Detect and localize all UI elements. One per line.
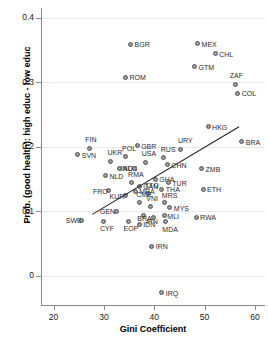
data-point (75, 152, 80, 157)
data-point (195, 41, 200, 46)
data-point (199, 166, 204, 171)
x-axis-tick-label: 30 (92, 312, 116, 322)
data-point-label: BGR (135, 41, 150, 48)
y-axis-tick (36, 18, 41, 19)
data-point-label: SVN (82, 152, 96, 159)
data-point-label: IRQ (166, 290, 178, 297)
data-point (213, 51, 218, 56)
data-point (162, 200, 167, 205)
y-axis-tick (36, 147, 41, 148)
data-point-label: SWE (66, 217, 82, 224)
data-point (206, 124, 211, 129)
data-point-label: MDA (162, 226, 178, 233)
x-axis-title: Gini Coefficient (41, 324, 265, 334)
data-point-label: ZMB (206, 166, 221, 173)
data-point-label: COL (242, 90, 256, 97)
data-point-label: MYS (174, 205, 189, 212)
data-point-label: TTO (145, 182, 159, 189)
data-point-label: IDN (143, 221, 155, 228)
data-point (166, 180, 171, 185)
data-point (192, 64, 197, 69)
y-axis-line (41, 8, 42, 305)
data-point-label: GTM (199, 64, 215, 71)
data-point-label: ETH (207, 186, 221, 193)
data-point (143, 160, 148, 165)
data-point (128, 42, 133, 47)
scatter-plot-figure: 00.10.20.30.4 2030405060 BGRMEXCHLGTMROM… (0, 0, 268, 340)
data-point (194, 215, 199, 220)
data-point (126, 219, 131, 224)
data-point (163, 219, 168, 224)
data-point-label: ZAF (230, 72, 243, 79)
data-point-label: FRO (93, 188, 108, 195)
data-point-label: RMA (128, 171, 144, 178)
data-point (178, 147, 183, 152)
data-point-label: FIN (85, 136, 96, 143)
gridline-y (42, 82, 265, 83)
y-axis-tick (36, 82, 41, 83)
data-point-label: VNI (146, 195, 158, 202)
gridline-y (42, 211, 265, 212)
data-point-label: EOP (124, 225, 139, 232)
data-point-label: USA (142, 150, 156, 157)
data-point (129, 180, 134, 185)
data-point (123, 154, 128, 159)
data-point (235, 91, 240, 96)
data-point-label: BRA (246, 139, 260, 146)
gridline-y (42, 18, 265, 19)
y-axis-tick (36, 276, 41, 277)
x-axis-tick-label: 40 (142, 312, 166, 322)
x-axis-tick (104, 305, 105, 310)
data-point (101, 219, 106, 224)
data-point-label: POL (122, 145, 136, 152)
data-point (108, 159, 113, 164)
data-point-label: CHL (219, 51, 233, 58)
y-axis-tick-label-wrap: 0 (0, 271, 34, 280)
data-point (132, 166, 137, 171)
x-axis-tick (255, 305, 256, 310)
x-axis-tick (54, 305, 55, 310)
data-point (201, 187, 206, 192)
data-point-label: HKG (212, 124, 227, 131)
y-axis-tick-label: 0 (0, 271, 34, 280)
data-point (137, 222, 142, 227)
data-point (137, 200, 142, 205)
y-axis-tick (36, 211, 41, 212)
data-point-label: MEX (202, 41, 217, 48)
data-point-label: ROM (130, 74, 146, 81)
data-point (148, 204, 153, 209)
data-point (87, 146, 92, 151)
data-point (162, 213, 167, 218)
data-point-label: GBR (141, 143, 156, 150)
x-axis-tick-label: 50 (193, 312, 217, 322)
data-point-label: GEN (100, 208, 115, 215)
x-axis-tick-label: 60 (243, 312, 267, 322)
y-axis-title: Prob. (good health): high educ - low edu… (22, 20, 32, 250)
x-axis-tick (154, 305, 155, 310)
x-axis-line (41, 305, 265, 306)
data-point-label: UKR (107, 149, 122, 156)
data-point-label: RUS (161, 146, 176, 153)
data-point (239, 139, 244, 144)
data-point-label: CYF (100, 225, 114, 232)
data-point-label: URY (178, 137, 193, 144)
data-point (123, 75, 128, 80)
x-axis-tick (205, 305, 206, 310)
data-point (233, 82, 238, 87)
data-point-label: RWA (200, 214, 216, 221)
data-point (103, 173, 108, 178)
data-point (159, 290, 164, 295)
data-point-label: NLD (109, 173, 123, 180)
data-point-label: MRS (162, 192, 178, 199)
data-point (167, 205, 172, 210)
data-point-label: IRN (156, 243, 168, 250)
data-point-label: MLI (167, 213, 179, 220)
x-axis-tick-label: 20 (42, 312, 66, 322)
gridline-y (42, 276, 265, 277)
data-point (161, 155, 166, 160)
data-point (149, 244, 154, 249)
